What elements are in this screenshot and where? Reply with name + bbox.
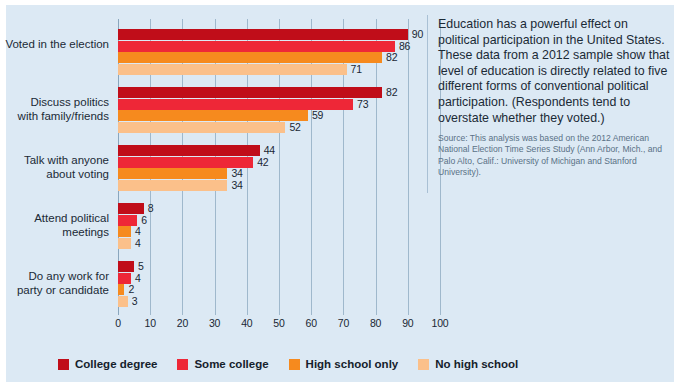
bar bbox=[118, 180, 227, 191]
category-label: Discuss politics with family/friends bbox=[0, 96, 109, 123]
bar-value-label: 8 bbox=[148, 203, 154, 214]
bar-group: Discuss politics with family/friends8273… bbox=[118, 87, 440, 133]
x-tick-label: 0 bbox=[115, 317, 121, 329]
bar-value-label: 52 bbox=[289, 122, 300, 133]
bar bbox=[118, 226, 131, 237]
x-tick-label: 60 bbox=[306, 317, 317, 329]
chart-panel: Voted in the election90868271Discuss pol… bbox=[6, 5, 674, 382]
bar-value-label: 4 bbox=[135, 226, 141, 237]
bar-value-label: 82 bbox=[386, 87, 397, 98]
legend-label: College degree bbox=[75, 358, 157, 370]
bar-group: Voted in the election90868271 bbox=[118, 29, 440, 75]
side-text-block: Education has a powerful effect on polit… bbox=[438, 17, 670, 178]
category-label: Do any work for party or candidate bbox=[0, 270, 109, 297]
x-tick-label: 80 bbox=[370, 317, 381, 329]
category-label: Voted in the election bbox=[0, 38, 109, 52]
x-axis: 0102030405060708090100 bbox=[118, 317, 440, 333]
bar-value-label: 86 bbox=[399, 41, 410, 52]
source-note: Source: This analysis was based on the 2… bbox=[438, 133, 670, 178]
bar-value-label: 44 bbox=[264, 145, 275, 156]
category-label: Attend political meetings bbox=[0, 212, 109, 239]
category-label: Talk with anyone about voting bbox=[0, 154, 109, 181]
bar bbox=[118, 168, 227, 179]
bar-group: Talk with anyone about voting44423434 bbox=[118, 145, 440, 191]
bar-value-label: 3 bbox=[132, 296, 138, 307]
x-tick-label: 90 bbox=[402, 317, 413, 329]
bar bbox=[118, 52, 382, 63]
bar bbox=[118, 41, 395, 52]
bar-value-label: 82 bbox=[386, 52, 397, 63]
x-tick-label: 10 bbox=[145, 317, 156, 329]
bar-group: Do any work for party or candidate5423 bbox=[118, 261, 440, 307]
bar bbox=[118, 296, 128, 307]
plot-area: Voted in the election90868271Discuss pol… bbox=[118, 19, 440, 315]
x-tick-label: 70 bbox=[338, 317, 349, 329]
legend-label: Some college bbox=[194, 358, 268, 370]
x-tick-label: 100 bbox=[432, 317, 449, 329]
legend-swatch-icon bbox=[58, 359, 69, 370]
bar bbox=[118, 273, 131, 284]
bar-value-label: 59 bbox=[312, 110, 323, 121]
legend-item[interactable]: Some college bbox=[177, 358, 268, 370]
bar bbox=[118, 145, 260, 156]
legend-item[interactable]: College degree bbox=[58, 358, 157, 370]
legend-item[interactable]: High school only bbox=[289, 358, 399, 370]
bar bbox=[118, 215, 137, 226]
legend-swatch-icon bbox=[177, 359, 188, 370]
bar bbox=[118, 284, 124, 295]
bar-value-label: 6 bbox=[141, 215, 147, 226]
bar-value-label: 73 bbox=[357, 99, 368, 110]
x-tick-label: 40 bbox=[241, 317, 252, 329]
x-tick-label: 20 bbox=[177, 317, 188, 329]
bar-group: Attend political meetings8644 bbox=[118, 203, 440, 249]
bar-value-label: 4 bbox=[135, 238, 141, 249]
vertical-divider bbox=[427, 15, 428, 193]
bar bbox=[118, 238, 131, 249]
bar-value-label: 90 bbox=[412, 29, 423, 40]
bar bbox=[118, 110, 308, 121]
legend-swatch-icon bbox=[289, 359, 300, 370]
legend: College degreeSome collegeHigh school on… bbox=[6, 353, 476, 375]
bar-value-label: 71 bbox=[351, 64, 362, 75]
bar-value-label: 2 bbox=[128, 284, 134, 295]
bar-value-label: 4 bbox=[135, 273, 141, 284]
bar bbox=[118, 157, 253, 168]
bar-value-label: 34 bbox=[231, 180, 242, 191]
legend-label: High school only bbox=[306, 358, 399, 370]
bar bbox=[118, 99, 353, 110]
bar-chart: Voted in the election90868271Discuss pol… bbox=[6, 5, 433, 382]
lede-paragraph: Education has a powerful effect on polit… bbox=[438, 17, 670, 126]
bar bbox=[118, 203, 144, 214]
bar-value-label: 42 bbox=[257, 157, 268, 168]
x-tick-label: 50 bbox=[273, 317, 284, 329]
x-tick-label: 30 bbox=[209, 317, 220, 329]
bar bbox=[118, 87, 382, 98]
legend-label: No high school bbox=[435, 358, 518, 370]
bar bbox=[118, 29, 408, 40]
legend-item[interactable]: No high school bbox=[418, 358, 518, 370]
bar-value-label: 34 bbox=[231, 168, 242, 179]
bar bbox=[118, 64, 347, 75]
bar bbox=[118, 261, 134, 272]
bar-value-label: 5 bbox=[138, 261, 144, 272]
chart-screenshot: Voted in the election90868271Discuss pol… bbox=[0, 0, 680, 387]
legend-swatch-icon bbox=[418, 359, 429, 370]
bar bbox=[118, 122, 285, 133]
